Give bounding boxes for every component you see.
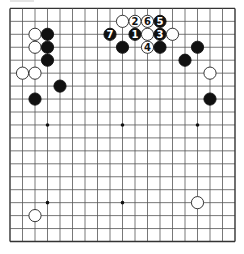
stones-layer: 2657134 xyxy=(16,15,216,221)
black-stone-icon xyxy=(41,28,53,40)
star-point-icon xyxy=(46,123,50,127)
white-stone xyxy=(204,67,216,79)
white-stone-move-6: 6 xyxy=(141,15,153,27)
move-number-label: 3 xyxy=(157,29,164,40)
white-stone-icon xyxy=(191,197,203,209)
white-stone xyxy=(29,210,41,222)
white-stone-icon xyxy=(116,15,128,27)
black-stone xyxy=(191,41,203,53)
black-stone-icon xyxy=(41,41,53,53)
white-stone xyxy=(29,67,41,79)
white-stone-icon xyxy=(16,67,28,79)
black-stone-icon xyxy=(116,41,128,53)
white-stone-icon xyxy=(29,210,41,222)
star-point-icon xyxy=(46,201,50,205)
white-stone xyxy=(29,41,41,53)
white-stone-icon xyxy=(29,67,41,79)
move-number-label: 1 xyxy=(132,29,139,40)
black-stone xyxy=(41,41,53,53)
black-stone xyxy=(29,93,41,105)
white-stone-icon xyxy=(166,28,178,40)
black-stone xyxy=(154,41,166,53)
star-point-icon xyxy=(121,201,125,205)
white-stone-icon xyxy=(141,28,153,40)
move-number-label: 7 xyxy=(107,29,114,40)
white-stone-move-2: 2 xyxy=(129,15,141,27)
black-stone xyxy=(204,93,216,105)
black-stone-icon xyxy=(41,54,53,66)
white-stone xyxy=(141,28,153,40)
white-stone-icon xyxy=(204,67,216,79)
black-stone-icon xyxy=(204,93,216,105)
black-stone xyxy=(54,80,66,92)
black-stone-move-7: 7 xyxy=(104,28,116,40)
black-stone xyxy=(41,54,53,66)
white-stone xyxy=(16,67,28,79)
white-stone-icon xyxy=(29,41,41,53)
black-stone xyxy=(41,28,53,40)
white-stone xyxy=(29,28,41,40)
star-point-icon xyxy=(121,123,125,127)
move-number-label: 6 xyxy=(144,16,151,27)
black-stone-move-5: 5 xyxy=(154,15,166,27)
move-number-label: 2 xyxy=(132,16,139,27)
black-stone xyxy=(179,54,191,66)
black-stone-icon xyxy=(54,80,66,92)
black-stone-icon xyxy=(29,93,41,105)
go-board: 2657134 xyxy=(0,0,244,254)
white-stone xyxy=(191,197,203,209)
white-stone xyxy=(116,15,128,27)
move-number-label: 4 xyxy=(144,42,151,53)
black-stone xyxy=(116,41,128,53)
white-stone-icon xyxy=(29,28,41,40)
black-stone-move-3: 3 xyxy=(154,28,166,40)
black-stone-icon xyxy=(179,54,191,66)
black-stone-icon xyxy=(191,41,203,53)
star-point-icon xyxy=(196,123,200,127)
white-stone-move-4: 4 xyxy=(141,41,153,53)
white-stone xyxy=(166,28,178,40)
black-stone-icon xyxy=(154,41,166,53)
black-stone-move-1: 1 xyxy=(129,28,141,40)
move-number-label: 5 xyxy=(157,16,164,27)
